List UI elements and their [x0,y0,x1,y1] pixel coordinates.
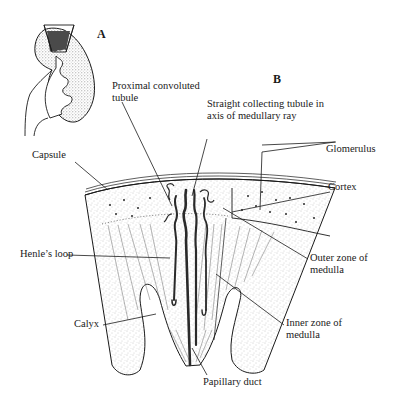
label-inner-line1: Inner zone of [286,317,342,329]
label-proximal-line1: Proximal convoluted [112,80,200,92]
label-outer-line2: medulla [310,264,368,276]
label-proximal-line2: tubule [112,92,200,104]
panel-label-a: A [97,27,106,42]
label-capsule: Capsule [32,149,66,161]
label-straight-line2: axis of medullary ray [207,110,324,122]
renal-lobe-panel-b [85,173,336,375]
panel-label-b: B [273,72,281,87]
label-outer-zone-medulla: Outer zone of medulla [310,252,368,276]
label-straight-collecting-tubule: Straight collecting tubule in axis of me… [207,98,324,122]
label-glomerulus: Glomerulus [326,143,376,155]
label-outer-line1: Outer zone of [310,252,368,264]
label-inner-line2: medulla [286,329,342,341]
label-straight-line1: Straight collecting tubule in [207,98,324,110]
label-henles-loop: Henle’s loop [20,248,73,260]
label-calyx: Calyx [74,318,99,330]
label-proximal-convoluted-tubule: Proximal convoluted tubule [112,80,200,104]
label-cortex: Cortex [328,181,357,193]
label-inner-zone-medulla: Inner zone of medulla [286,317,342,341]
label-papillary-duct: Papillary duct [203,376,262,388]
kidney-overview-panel-a [25,25,95,136]
